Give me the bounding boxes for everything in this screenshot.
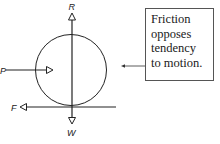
callout-arrowhead-icon (121, 64, 125, 67)
note-line-4: to motion. (151, 56, 213, 71)
f-arrowhead-icon (20, 104, 27, 111)
label-p: P (0, 66, 6, 76)
label-f: F (11, 103, 17, 113)
label-r: R (69, 2, 76, 12)
note-line-3: tendency (151, 41, 213, 56)
note-line-1: Friction (151, 12, 213, 27)
friction-note-box: Friction opposes tendency to motion. (145, 8, 214, 81)
w-arrowhead-icon (69, 118, 76, 125)
note-line-2: opposes (151, 27, 213, 42)
label-w: W (67, 128, 77, 138)
r-arrowhead-icon (69, 13, 76, 20)
p-arrowhead-icon (47, 67, 54, 74)
